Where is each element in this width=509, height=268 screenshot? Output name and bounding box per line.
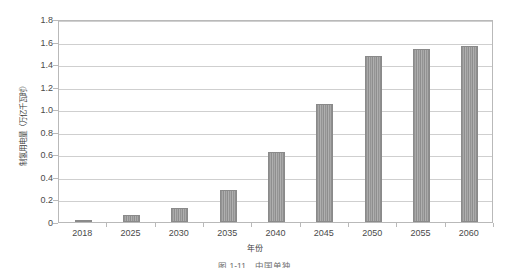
chart-figure: 制氢用电量（万亿千瓦时） 00.20.40.60.81.01.21.41.61.… <box>0 0 509 268</box>
bar <box>365 56 382 222</box>
bar <box>171 208 188 222</box>
plot-area <box>58 20 493 223</box>
x-tick-label: 2030 <box>156 228 202 238</box>
y-tick-label: 0.6 <box>20 150 53 160</box>
x-tick-mark <box>493 223 494 227</box>
figure-caption: 图 1-11 中国单独 <box>0 259 509 268</box>
x-tick-label: 2045 <box>301 228 347 238</box>
y-tick-label: 0.2 <box>20 195 53 205</box>
x-tick-mark <box>106 223 107 227</box>
x-tick-mark <box>251 223 252 227</box>
x-tick-mark <box>396 223 397 227</box>
bar <box>75 220 92 222</box>
x-tick-mark <box>300 223 301 227</box>
y-tick-label: 0.8 <box>20 128 53 138</box>
y-tick-label: 0 <box>20 218 53 228</box>
bar <box>220 190 237 222</box>
y-tick-label: 1.2 <box>20 83 53 93</box>
y-tick-label: 1.6 <box>20 38 53 48</box>
x-tick-mark <box>155 223 156 227</box>
y-tick-mark <box>53 223 58 224</box>
x-tick-mark <box>445 223 446 227</box>
x-tick-label: 2055 <box>398 228 444 238</box>
y-tick-label: 1.0 <box>20 105 53 115</box>
y-tick-label: 0.4 <box>20 173 53 183</box>
y-tick-label: 1.4 <box>20 60 53 70</box>
bar <box>316 104 333 222</box>
bar-series <box>59 21 492 222</box>
x-tick-label: 2060 <box>446 228 492 238</box>
x-tick-mark <box>203 223 204 227</box>
x-tick-label: 2050 <box>349 228 395 238</box>
x-axis-title: 年份 <box>0 242 509 253</box>
y-tick-label: 1.8 <box>20 15 53 25</box>
bar <box>461 46 478 222</box>
x-tick-label: 2025 <box>108 228 154 238</box>
bar <box>123 215 140 222</box>
x-tick-label: 2018 <box>59 228 105 238</box>
x-tick-label: 2040 <box>253 228 299 238</box>
bar <box>268 152 285 222</box>
bar <box>413 49 430 222</box>
x-tick-label: 2035 <box>204 228 250 238</box>
x-tick-mark <box>348 223 349 227</box>
